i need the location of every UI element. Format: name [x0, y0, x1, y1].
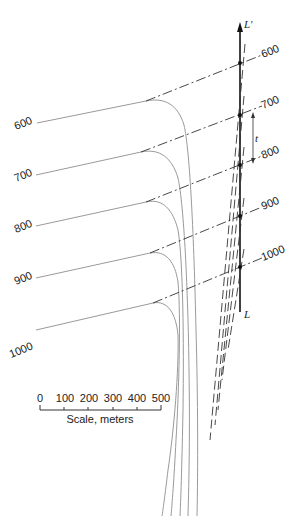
contour-900 — [36, 253, 179, 516]
axis-bottom-label: L — [243, 308, 250, 320]
scale-tick-100: 100 — [56, 392, 74, 404]
right-label-900: 900 — [259, 194, 281, 212]
scale-bar: 0 100 200 300 400 500 Scale, meters — [37, 392, 170, 425]
scale-tick-300: 300 — [104, 392, 122, 404]
scale-tick-0: 0 — [37, 392, 43, 404]
scale-tick-400: 400 — [128, 392, 146, 404]
right-label-1000: 1000 — [259, 243, 286, 263]
left-label-600: 600 — [12, 114, 34, 132]
contour-1000 — [36, 303, 178, 516]
contour-800 — [36, 201, 183, 516]
contour-curves — [36, 100, 198, 516]
dot-700 — [238, 113, 242, 117]
dimension-t: t — [251, 112, 259, 164]
scale-tick-200: 200 — [80, 392, 98, 404]
dot-600 — [238, 61, 242, 65]
right-label-800: 800 — [259, 143, 281, 161]
scale-tick-500: 500 — [152, 392, 170, 404]
dot-900 — [238, 214, 242, 218]
contour-700 — [36, 151, 189, 516]
left-label-1000: 1000 — [7, 340, 34, 360]
left-label-900: 900 — [12, 269, 34, 287]
right-label-600: 600 — [259, 42, 281, 60]
contour-extensions — [141, 55, 262, 303]
diagram-canvas: L' L t 600 700 800 — [0, 0, 301, 520]
axis-top-label: L' — [243, 18, 253, 30]
dot-800 — [238, 163, 242, 167]
contour-600 — [37, 100, 198, 516]
dot-1000 — [238, 265, 242, 269]
left-label-700: 700 — [12, 166, 34, 184]
right-label-700: 700 — [259, 93, 281, 111]
left-label-800: 800 — [12, 217, 34, 235]
scale-caption: Scale, meters — [66, 413, 134, 425]
dimension-t-label: t — [255, 132, 259, 144]
arrow-up-icon — [237, 22, 243, 32]
